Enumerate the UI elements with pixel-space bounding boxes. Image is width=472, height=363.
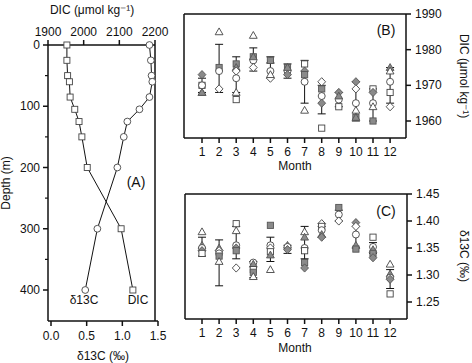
diamond-marker — [318, 233, 326, 241]
square-marker — [319, 86, 325, 92]
figure: DIC (μmol kg⁻¹) Depth (m) (A) δ13C (‰) δ… — [0, 0, 472, 363]
month-tick-label: 10 — [349, 326, 363, 340]
panel-a: DIC (μmol kg⁻¹) Depth (m) (A) δ13C (‰) δ… — [0, 3, 169, 363]
square-marker — [233, 248, 239, 254]
circle-marker — [147, 57, 154, 64]
panel-a-bottom-xlabel: δ13C (‰) — [77, 349, 129, 363]
square-marker — [64, 57, 70, 63]
square-marker — [64, 42, 70, 48]
square-marker — [76, 119, 82, 125]
panel-a-ylabel: Depth (m) — [0, 156, 13, 209]
month-tick-label: 9 — [335, 145, 342, 159]
square-marker — [118, 226, 124, 232]
circle-marker — [301, 78, 308, 85]
month-tick-label: 3 — [233, 145, 240, 159]
square-marker — [353, 246, 359, 252]
triangle-marker — [352, 106, 360, 113]
top-tick-label: 2000 — [70, 25, 97, 39]
panel-a-top-xlabel: DIC (μmol kg⁻¹) — [50, 3, 134, 17]
y-tick-label: 1.30 — [416, 268, 440, 282]
y-tick-label: 1980 — [415, 43, 442, 57]
square-marker — [387, 89, 393, 95]
month-tick-label: 10 — [349, 145, 363, 159]
top-tick-label: 1900 — [35, 25, 62, 39]
circle-marker — [149, 78, 156, 85]
square-marker — [267, 222, 273, 228]
y-tick-label: 1.40 — [416, 214, 440, 228]
panel-b-xlabel: Month — [278, 159, 311, 173]
circle-marker — [120, 133, 127, 140]
panel-c-plot: 1234567891011121.251.301.351.401.45 — [185, 187, 440, 340]
circle-marker — [146, 94, 153, 101]
square-marker — [84, 165, 90, 171]
diamond-marker — [386, 103, 394, 111]
top-tick-label: 2200 — [142, 25, 169, 39]
panel-b-ylabel: DIC (μmol kg⁻¹) — [457, 34, 471, 118]
month-tick-label: 8 — [318, 326, 325, 340]
square-marker — [267, 57, 273, 63]
month-tick-label: 2 — [216, 145, 223, 159]
square-marker — [65, 73, 71, 79]
square-marker — [336, 104, 342, 110]
circle-marker — [136, 106, 143, 113]
diamond-marker — [198, 71, 206, 79]
triangle-marker — [301, 106, 309, 113]
month-tick-label: 5 — [267, 145, 274, 159]
month-tick-label: 12 — [383, 326, 397, 340]
diamond-marker — [232, 264, 240, 272]
series-line-dic — [67, 45, 133, 290]
y-tick-label: 1.35 — [416, 241, 440, 255]
square-marker — [387, 291, 393, 297]
panel-b: (B) Month DIC (μmol kg⁻¹) 12345678910111… — [184, 7, 471, 173]
month-tick-label: 7 — [301, 326, 308, 340]
month-tick-label: 8 — [318, 145, 325, 159]
diamond-marker — [215, 85, 223, 93]
depth-tick-label: 400 — [20, 283, 40, 297]
triangle-marker — [249, 32, 257, 39]
circle-marker — [114, 164, 121, 171]
month-tick-label: 4 — [250, 326, 257, 340]
diamond-marker — [352, 85, 360, 93]
y-tick-label: 1960 — [415, 114, 442, 128]
month-tick-label: 6 — [284, 326, 291, 340]
month-tick-label: 1 — [199, 326, 206, 340]
square-marker — [302, 61, 308, 67]
month-tick-label: 7 — [301, 145, 308, 159]
diamond-marker — [249, 63, 257, 71]
triangle-marker — [386, 260, 394, 267]
panel-c-xlabel: Month — [278, 341, 311, 355]
month-tick-label: 9 — [335, 326, 342, 340]
square-marker — [302, 248, 308, 254]
top-tick-label: 2100 — [106, 25, 133, 39]
month-tick-label: 5 — [267, 326, 274, 340]
square-marker — [130, 287, 136, 293]
depth-tick-label: 100 — [20, 99, 40, 113]
square-marker — [67, 94, 73, 100]
square-marker — [233, 97, 239, 103]
circle-marker — [233, 75, 240, 82]
month-tick-label: 2 — [216, 326, 223, 340]
triangle-marker — [215, 28, 223, 35]
circle-marker — [146, 42, 153, 49]
depth-tick-label: 0 — [33, 38, 40, 52]
circle-marker — [216, 68, 223, 75]
bottom-tick-label: 1.0 — [114, 329, 131, 343]
circle-marker — [82, 287, 89, 294]
month-tick-label: 4 — [250, 145, 257, 159]
triangle-marker — [267, 266, 275, 273]
square-marker — [66, 79, 72, 85]
circle-marker — [94, 225, 101, 232]
square-marker — [370, 118, 376, 124]
square-marker — [336, 204, 342, 210]
month-tick-label: 6 — [284, 145, 291, 159]
circle-marker — [124, 118, 131, 125]
diamond-marker — [335, 217, 343, 225]
diamond-marker — [318, 99, 326, 107]
square-marker — [370, 234, 376, 240]
panel-c-ylabel: δ13C (‰) — [457, 230, 471, 282]
depth-tick-label: 200 — [20, 161, 40, 175]
square-marker — [319, 125, 325, 131]
square-marker — [233, 221, 239, 227]
y-tick-label: 1990 — [415, 7, 442, 21]
annotation-dic: DIC — [128, 293, 149, 307]
